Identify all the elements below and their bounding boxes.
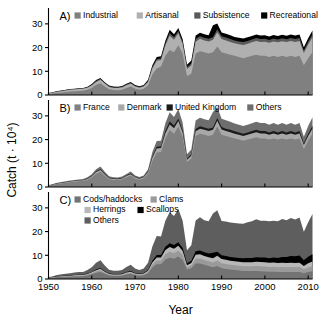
stacked-area-figure: 0102030A)IndustrialArtisanalSubsistenceR… xyxy=(0,0,321,320)
panel-letter: B) xyxy=(60,102,71,114)
legend-label-france: France xyxy=(83,102,110,112)
y-tick-label: 20 xyxy=(32,226,43,237)
x-tick-label: 1990 xyxy=(211,281,232,292)
panel-letter: C) xyxy=(60,194,72,206)
figure-container: 0102030A)IndustrialArtisanalSubsistenceR… xyxy=(0,0,321,320)
legend-label-others: Others xyxy=(256,102,282,112)
panel-letter: A) xyxy=(60,10,71,22)
y-tick-label: 10 xyxy=(32,158,43,169)
legend-label-clams: Clams xyxy=(159,194,183,204)
y-tick-label: 20 xyxy=(32,42,43,53)
legend-label-subsistence: Subsistence xyxy=(203,10,250,20)
y-tick-label: 0 xyxy=(37,89,42,100)
x-tick-label: 1950 xyxy=(38,281,59,292)
legend-swatch-denmark xyxy=(118,104,124,110)
legend-swatch-others xyxy=(247,104,253,110)
legend-swatch-clams xyxy=(151,196,157,202)
x-axis-title: Year xyxy=(168,303,192,317)
x-tick-label: 1970 xyxy=(124,281,145,292)
legend-label-united-kingdom: United Kingdom xyxy=(175,102,236,112)
legend-swatch-artisanal xyxy=(137,12,143,18)
x-tick-label: 1980 xyxy=(168,281,189,292)
legend-label-industrial: Industrial xyxy=(83,10,118,20)
legend-label-others: Others xyxy=(93,215,119,225)
legend-swatch-industrial xyxy=(75,12,81,18)
legend-label-artisanal: Artisanal xyxy=(145,10,179,20)
y-axis-title: Catch (t · 10⁴) xyxy=(5,122,19,197)
legend-label-herrings: Herrings xyxy=(93,204,125,214)
y-tick-label: 30 xyxy=(32,18,43,29)
y-tick-label: 10 xyxy=(32,250,43,261)
x-tick-label: 1960 xyxy=(81,281,102,292)
legend-swatch-france xyxy=(75,104,81,110)
y-tick-label: 0 xyxy=(37,181,42,192)
legend-swatch-others xyxy=(85,217,91,223)
legend-swatch-subsistence xyxy=(194,12,200,18)
x-tick-label: 2010 xyxy=(298,281,319,292)
legend-label-cods-haddocks: Cods/haddocks xyxy=(83,194,142,204)
legend-swatch-herrings xyxy=(85,207,91,213)
y-tick-label: 30 xyxy=(32,202,43,213)
x-tick-label: 2000 xyxy=(254,281,275,292)
legend-label-recreational: Recreational xyxy=(270,10,318,20)
legend-swatch-recreational xyxy=(261,12,267,18)
y-tick-label: 30 xyxy=(32,110,43,121)
y-tick-label: 20 xyxy=(32,134,43,145)
legend-label-scallops: Scallops xyxy=(146,204,178,214)
legend-label-denmark: Denmark xyxy=(127,102,163,112)
legend-swatch-united-kingdom xyxy=(167,104,173,110)
legend-swatch-scallops xyxy=(137,207,143,213)
y-tick-label: 10 xyxy=(32,66,43,77)
legend-swatch-cods-haddocks xyxy=(75,196,81,202)
